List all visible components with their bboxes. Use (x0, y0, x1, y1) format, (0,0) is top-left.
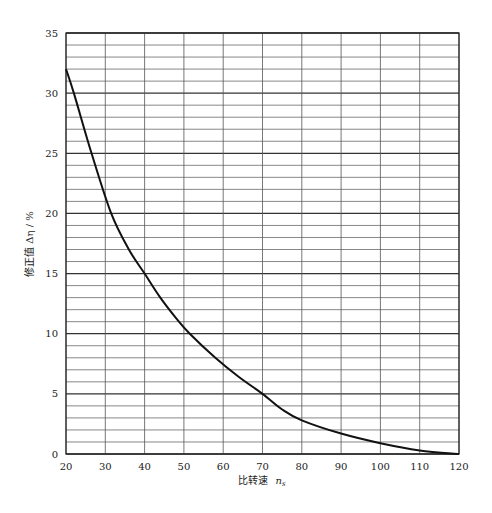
x-tick-label: 20 (60, 461, 73, 472)
x-tick-label: 30 (99, 461, 112, 472)
y-tick-label: 25 (45, 148, 58, 159)
x-tick-label: 80 (295, 461, 308, 472)
y-tick-label: 0 (52, 449, 58, 460)
x-axis-label-sub: s (282, 480, 286, 488)
x-tick-label: 110 (410, 461, 429, 472)
x-tick-label: 50 (178, 461, 191, 472)
x-axis-label: 比转速 ns (238, 474, 286, 488)
y-tick-label: 30 (45, 88, 58, 99)
x-tick-label: 40 (138, 461, 151, 472)
y-tick-label: 20 (45, 208, 58, 219)
chart: 05101520253035 2030405060708090100110120… (0, 0, 492, 513)
x-tick-labels: 2030405060708090100110120 (60, 461, 469, 472)
y-tick-label: 10 (45, 328, 58, 339)
y-tick-label: 5 (52, 388, 58, 399)
x-tick-label: 90 (335, 461, 348, 472)
x-tick-label: 120 (449, 461, 468, 472)
y-tick-labels: 05101520253035 (45, 28, 58, 460)
y-tick-label: 35 (45, 28, 58, 39)
x-tick-label: 60 (217, 461, 230, 472)
x-tick-label: 100 (371, 461, 390, 472)
x-tick-label: 70 (256, 461, 269, 472)
x-axis-label-main: 比转速 (238, 474, 268, 486)
y-tick-label: 15 (45, 268, 58, 279)
y-axis-label: 修正值 Δη / % (23, 211, 35, 277)
